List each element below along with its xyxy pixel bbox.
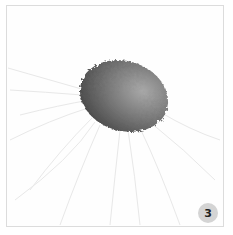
badge-label: 3 xyxy=(204,207,212,220)
number-badge: 3 xyxy=(198,203,218,223)
ink-blot-illustration xyxy=(0,0,233,235)
